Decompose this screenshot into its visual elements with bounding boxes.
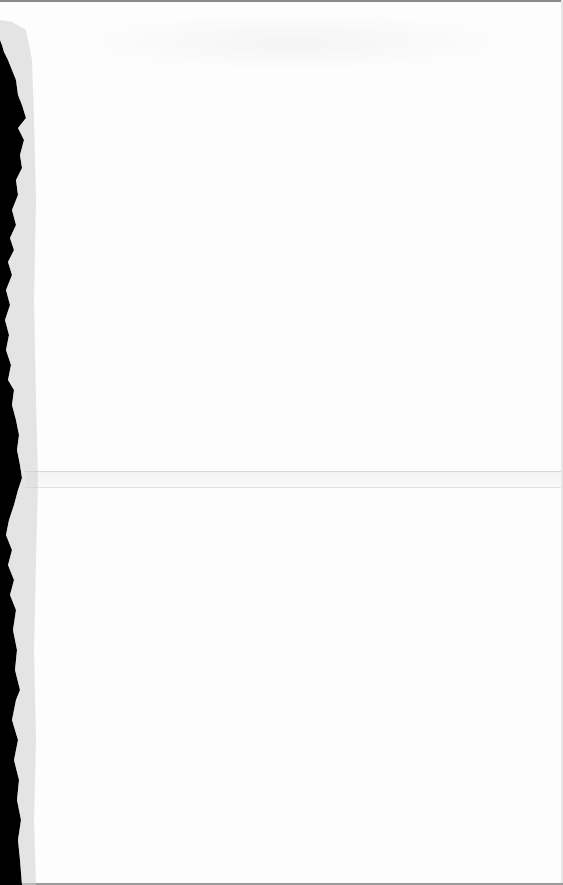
top-border	[0, 0, 563, 2]
bleed-through-smudge	[60, 12, 530, 72]
torn-left-edge	[0, 0, 40, 885]
fold-line-upper	[25, 471, 563, 472]
fold-line-lower	[25, 487, 563, 488]
fold-shade	[25, 472, 563, 487]
scanned-page	[0, 0, 563, 885]
